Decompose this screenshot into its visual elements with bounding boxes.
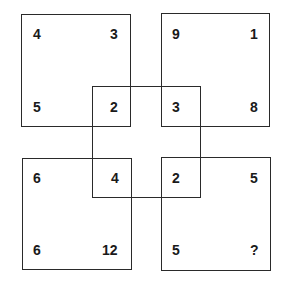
number-bl-tr: 4 xyxy=(111,171,119,185)
number-tl-tr: 3 xyxy=(110,27,118,41)
number-tl-tl: 4 xyxy=(33,27,41,41)
number-bl-br: 12 xyxy=(102,243,118,257)
number-tl-br: 2 xyxy=(110,100,118,114)
number-bl-bl: 6 xyxy=(33,243,41,257)
number-tr-br: 8 xyxy=(250,100,258,114)
number-tr-tr: 1 xyxy=(250,27,258,41)
number-tr-tl: 9 xyxy=(172,27,180,41)
number-br-br-unknown: ? xyxy=(250,243,259,257)
square-center xyxy=(92,86,201,198)
number-bl-tl: 6 xyxy=(33,171,41,185)
number-tr-bl: 3 xyxy=(172,100,180,114)
number-tl-bl: 5 xyxy=(33,100,41,114)
number-br-tr: 5 xyxy=(250,171,258,185)
number-br-bl: 5 xyxy=(172,243,180,257)
number-br-tl: 2 xyxy=(172,171,180,185)
